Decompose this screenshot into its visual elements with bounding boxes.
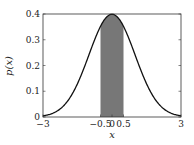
y-tick-label: 0.4 xyxy=(26,9,41,19)
y-axis-label: p(x) xyxy=(3,56,14,76)
x-tick-label: 0.5 xyxy=(116,119,131,129)
y-tick-label: 0.2 xyxy=(26,61,40,71)
normal-pdf-chart: 00.10.20.30.4 −3−0.500.53 x p(x) xyxy=(0,0,194,145)
y-tick-label: 0.3 xyxy=(26,35,41,45)
x-tick-label: −3 xyxy=(36,119,50,129)
x-tick-label: 0 xyxy=(109,119,115,129)
x-axis-label: x xyxy=(109,129,115,140)
y-tick-label: 0.1 xyxy=(26,86,40,96)
shaded-area xyxy=(101,14,124,117)
x-tick-label: 3 xyxy=(178,119,184,129)
